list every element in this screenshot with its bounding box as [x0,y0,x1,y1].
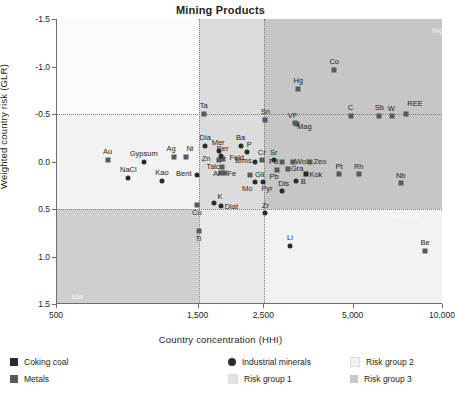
x-tick-mark-0 [56,304,57,308]
legend-swatch-square-icon [10,375,18,383]
data-label-au: Au [103,148,112,156]
risk-band-mid-bottom [199,209,265,304]
data-label-ree: REE [407,100,422,108]
y-tick-label-3: 0.0 [16,157,50,167]
data-label-al: Al [213,170,220,178]
y-tick-label-0: -1.5 [16,14,50,24]
data-point-be [423,248,428,253]
data-label-p: P [247,141,252,149]
data-point-ag [172,154,177,159]
data-label-zn: Zn [202,155,211,163]
data-point-sb [377,113,382,118]
x-tick-label-2: 2,500 [253,310,274,320]
data-point-kao [160,178,165,183]
data-label-ag: Ag [166,145,175,153]
data-point-mo [253,180,258,185]
legend-swatch-circle-icon [228,358,236,366]
legend-label: Coking coal [24,357,68,367]
legend-item-risk-group-1[interactable]: Risk group 1 [228,370,311,387]
data-point-bent [194,172,199,177]
data-label-ti: Ti [196,235,202,243]
y-tick-label-4: 0.5 [16,204,50,214]
chart-title: Mining Products [0,4,441,16]
x-tick-label-0: 500 [49,310,63,320]
y-tick-mark-5 [52,257,56,258]
data-label-ta: Ta [200,102,208,110]
data-point-talc [220,165,225,170]
y-tick-mark-0 [52,19,56,20]
data-label-dis: Dis [278,180,289,188]
x-tick-mark-1 [198,304,199,308]
data-point-ba [238,144,243,149]
y-tick-mark-2 [52,114,56,115]
annotation-threshold-vertical: threshold [190,43,199,77]
data-point-ta [201,112,206,117]
legend-label: Risk group 1 [244,374,292,384]
data-point-diat [219,204,224,209]
x-tick-mark-2 [263,304,264,308]
y-axis-label: Weighted country risk (GLR) [0,64,9,189]
threshold-line-y-1 [57,114,442,115]
data-label-sr: Sr [270,149,278,157]
data-label-zr: Zr [262,202,269,210]
data-label-sb: Sb [375,104,384,112]
legend-swatch-square-icon [10,358,18,366]
legend-item-industrial-minerals[interactable]: Industrial minerals [228,353,311,370]
data-label-ni: Ni [186,145,193,153]
data-point-cr [259,157,264,162]
risk-band-lowrisk-bottomright [264,209,442,304]
legend-item-risk-group-3[interactable]: Risk group 3 [350,370,414,387]
data-point-w [390,113,395,118]
data-point-co [332,68,337,73]
x-tick-mark-3 [353,304,354,308]
data-label-sn: Sn [261,108,270,116]
data-point-sn [263,117,268,122]
data-label-pyr: Pyr [261,185,272,193]
data-label-cu: Cu [192,209,202,217]
data-label-c: C [348,104,353,112]
x-tick-mark-4 [442,304,443,308]
x-tick-label-1: 1,500 [187,310,208,320]
data-point-rh [356,171,361,176]
data-point-li [287,244,292,249]
legend-item-risk-group-2[interactable]: Risk group 2 [350,353,414,370]
data-point-k [211,201,216,206]
data-point-zeo [307,160,312,165]
legend-label: Industrial minerals [242,357,311,367]
data-label-mag: Mag [297,123,312,131]
x-axis-label: Country concentration (HHI) [0,334,441,345]
data-label-mo: Mo [242,185,252,193]
data-label-be: Be [420,239,429,247]
legend-swatch-square-icon [350,357,360,367]
legend-item-metals[interactable]: Metals [10,370,68,387]
legend-item-coking-coal[interactable]: Coking coal [10,353,68,370]
x-tick-label-4: 10,000 [429,310,455,320]
y-tick-label-1: -1.0 [16,62,50,72]
data-label-dia: Dia [200,134,211,142]
legend-column-1: Industrial mineralsRisk group 1 [228,353,311,387]
data-label-per: Per [217,145,229,153]
legend-swatch-square-icon [228,374,238,384]
data-label-ba: Ba [236,134,245,142]
data-label-bims: Bims [235,157,252,165]
data-point-ni [183,154,188,159]
data-point-dis [279,188,284,193]
data-point-nacl [126,175,131,180]
risk-band-low-corner [57,209,199,304]
y-tick-label-6: 1.5 [16,299,50,309]
data-point-pt [336,171,341,176]
data-label-gypsum: Gypsum [130,150,158,158]
data-label-rh: Rh [354,163,364,171]
data-label-diat: Diat [225,203,238,211]
x-tick-label-3: 5,000 [342,310,363,320]
data-label-zeo: Zeo [313,158,326,166]
data-point-pd [279,160,284,165]
legend-swatch-square-icon [350,375,358,383]
data-point-dia [203,144,208,149]
data-point-cu [194,203,199,208]
data-point-hg [296,87,301,92]
data-label-vf: VF [288,112,298,120]
data-point-gypsum [141,159,146,164]
threshold-line-x-2 [264,19,265,303]
